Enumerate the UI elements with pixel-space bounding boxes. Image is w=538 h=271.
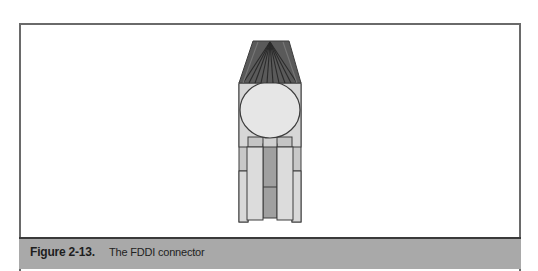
figure-label: Figure 2-13. <box>30 245 95 259</box>
figure-caption-bar: Figure 2-13. The FDDI connector <box>19 237 521 269</box>
left-ferrule-prong <box>247 147 263 220</box>
right-ferrule-prong <box>277 147 293 220</box>
figure-caption: The FDDI connector <box>109 246 204 258</box>
center-key <box>263 144 277 218</box>
connector-face-circle <box>240 82 300 138</box>
